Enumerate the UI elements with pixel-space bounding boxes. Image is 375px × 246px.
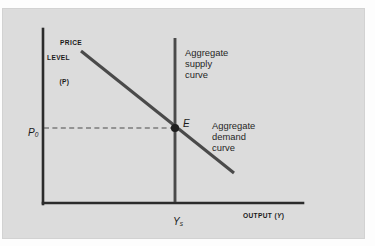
output-tick-label: Ys — [173, 216, 183, 228]
x-axis-title: OUTPUT (Y) — [243, 212, 284, 220]
y-axis-title-line2: LEVEL — [47, 54, 82, 62]
aggregate-demand-label: Aggregatedemandcurve — [212, 120, 255, 153]
figure-root: PRICE LEVEL (P) OUTPUT (Y) Aggregatesupp… — [0, 0, 375, 246]
output-symbol: Y — [173, 216, 180, 227]
output-subscript: s — [180, 220, 183, 227]
y-axis-title: PRICE LEVEL (P) — [47, 31, 82, 101]
x-axis-title-text: OUTPUT ( — [243, 212, 277, 219]
aggregate-supply-label: Aggregatesupplycurve — [185, 47, 228, 80]
y-axis-title-line3: (P) — [47, 78, 82, 86]
price-level-symbol: P — [28, 127, 35, 138]
x-axis-title-close: ) — [282, 212, 285, 219]
price-level-subscript: 0 — [35, 131, 39, 138]
price-level-tick-label: P0 — [28, 127, 38, 139]
equilibrium-point-label: E — [183, 118, 190, 130]
diagram-panel: PRICE LEVEL (P) OUTPUT (Y) Aggregatesupp… — [3, 9, 364, 238]
equilibrium-point-marker — [171, 124, 179, 132]
y-axis-title-line1: PRICE — [60, 39, 82, 46]
